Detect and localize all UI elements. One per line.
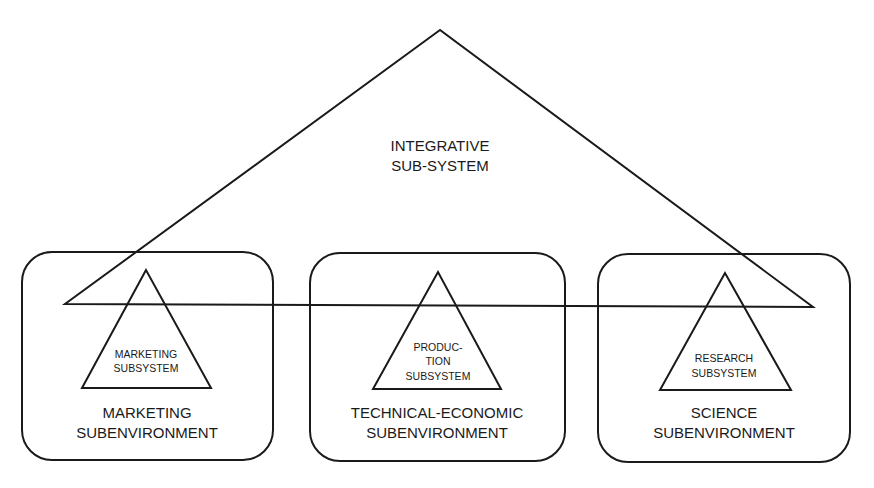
marketing-subenvironment-label-line-2: SUBENVIRONMENT (76, 424, 218, 441)
technical-economic-subenvironment-label-line-1: TECHNICAL-ECONOMIC (351, 404, 524, 421)
integrative-label-line-1: INTEGRATIVE (391, 137, 490, 154)
research-subsystem-label-line-2: SUBSYSTEM (692, 367, 757, 379)
integrative-label-line-2: SUB-SYSTEM (391, 157, 489, 174)
marketing-subsystem-label-line-1: MARKETING (115, 348, 177, 360)
marketing-subenvironment-label-line-1: MARKETING (102, 404, 191, 421)
technical-economic-subenvironment-label-line-2: SUBENVIRONMENT (366, 424, 508, 441)
production-subsystem-label-line-2: TION (425, 355, 450, 367)
marketing-subsystem-label-line-2: SUBSYSTEM (114, 362, 179, 374)
research-subsystem-label-line-1: RESEARCH (695, 352, 753, 364)
diagram-canvas: INTEGRATIVE SUB-SYSTEM MARKETING SUBSYST… (0, 0, 874, 488)
production-subsystem-label-line-1: PRODUC- (414, 341, 464, 353)
science-subenvironment-label-line-2: SUBENVIRONMENT (653, 424, 795, 441)
science-subenvironment-label-line-1: SCIENCE (691, 404, 758, 421)
production-subsystem-label-line-3: SUBSYSTEM (406, 370, 471, 382)
